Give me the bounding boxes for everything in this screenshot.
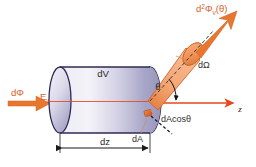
emitted-flux-label: d2Φν(θ)	[196, 3, 227, 16]
incident-flux-label: dΦ	[11, 87, 24, 98]
svg-text:Eν: Eν	[40, 91, 50, 104]
thickness-label: dz	[100, 136, 110, 147]
diagram-canvas: z dΦ Eν dV	[0, 0, 256, 167]
solid-angle-label: dΩ	[198, 60, 210, 70]
solid-angle-cone	[148, 30, 214, 110]
photon-energy-label: Eν	[40, 91, 50, 104]
emitted-flux-argument: (θ)	[216, 3, 228, 14]
emitted-flux-arrow-shape	[196, 11, 237, 58]
z-axis-label: z	[237, 104, 242, 114]
cylinder-left-face	[49, 67, 71, 133]
area-element-label: dA	[132, 134, 143, 144]
volume-element-label: dV	[97, 68, 109, 79]
projected-area-label: dAcosθ	[161, 114, 191, 124]
svg-text:d2Φν(θ): d2Φν(θ)	[196, 3, 227, 16]
theta-label: θ	[156, 81, 161, 92]
emitted-flux-arrow	[196, 11, 237, 58]
radiative-transfer-diagram: z dΦ Eν dV	[0, 0, 256, 167]
